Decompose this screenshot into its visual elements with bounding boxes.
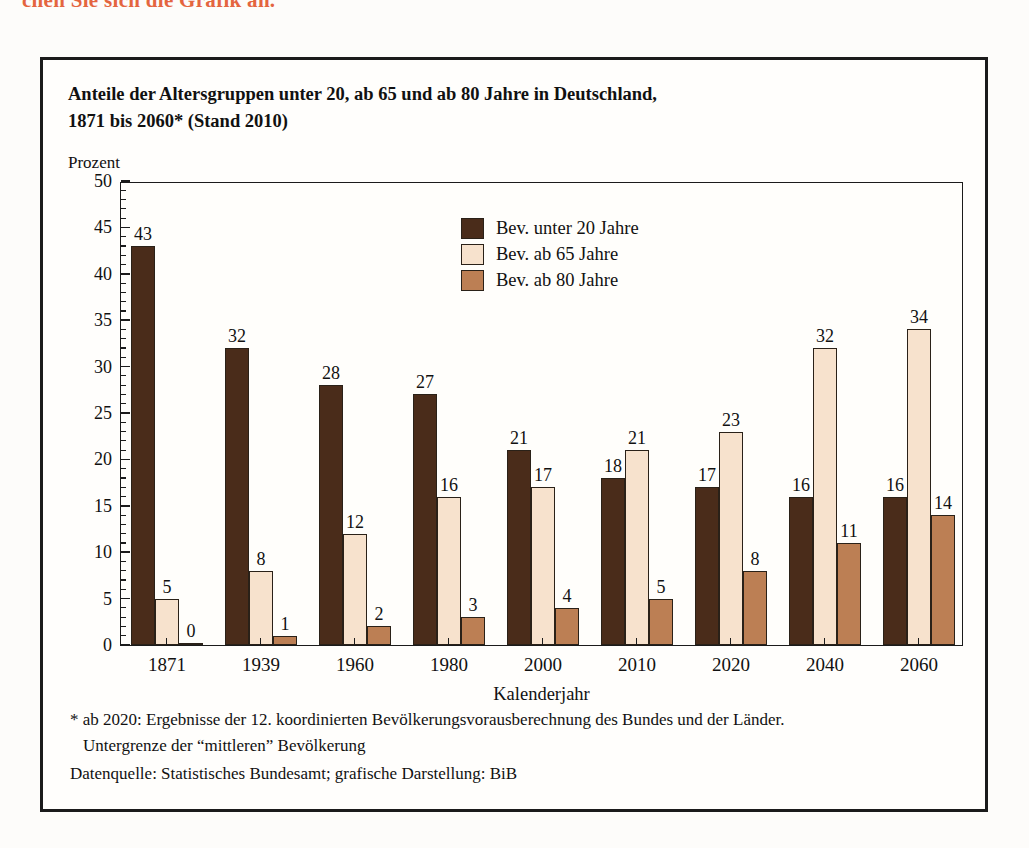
figure-notes: * ab 2020: Ergebnisse der 12. koordinier…	[70, 707, 970, 787]
bar[interactable]: 4	[555, 608, 579, 645]
y-axis-minor-tick	[121, 542, 126, 543]
bar-value-label: 27	[416, 372, 434, 393]
bar[interactable]: 18	[601, 478, 625, 645]
x-axis-title: Kalenderjahr	[121, 684, 962, 705]
x-axis-category-label: 2010	[618, 654, 656, 676]
bar-value-label: 1	[281, 614, 290, 635]
y-axis-minor-tick	[121, 208, 126, 209]
y-axis-minor-tick	[121, 375, 126, 376]
y-axis-minor-tick	[121, 199, 126, 200]
y-axis-tick-label: 35	[94, 310, 112, 331]
x-axis-category-label: 2000	[524, 654, 562, 676]
y-axis-tick-label: 5	[103, 588, 112, 609]
bar-value-label: 11	[840, 521, 857, 542]
y-axis-major-tick	[121, 319, 130, 321]
x-axis-tick	[542, 638, 543, 645]
y-axis-minor-tick	[121, 431, 126, 432]
bar[interactable]: 32	[225, 348, 249, 645]
y-axis-minor-tick	[121, 385, 126, 386]
y-axis-tick-label: 30	[94, 356, 112, 377]
y-axis-minor-tick	[121, 626, 126, 627]
x-axis-tick	[448, 638, 449, 645]
legend-item[interactable]: Bev. ab 65 Jahre	[461, 241, 639, 267]
y-axis-minor-tick	[121, 524, 126, 525]
legend-item[interactable]: Bev. unter 20 Jahre	[461, 215, 639, 241]
y-axis-minor-tick	[121, 635, 126, 636]
x-axis-category-label: 2060	[900, 654, 938, 676]
bar[interactable]: 27	[413, 394, 437, 645]
y-axis-minor-tick	[121, 218, 126, 219]
bar[interactable]: 28	[319, 385, 343, 645]
bar[interactable]: 16	[437, 497, 461, 645]
x-axis-category-label: 2020	[712, 654, 750, 676]
y-axis-major-tick	[121, 598, 130, 600]
bar[interactable]: 23	[719, 432, 743, 645]
legend-swatch-icon	[461, 218, 484, 239]
bar[interactable]: 17	[531, 487, 555, 645]
y-axis-minor-tick	[121, 255, 126, 256]
y-axis-minor-tick	[121, 579, 126, 580]
bar[interactable]: 1	[273, 636, 297, 645]
bar-value-label: 32	[228, 326, 246, 347]
y-axis-tick-label: 20	[94, 449, 112, 470]
bar[interactable]: 2	[367, 626, 391, 645]
bar[interactable]: 5	[649, 599, 673, 645]
y-axis-minor-tick	[121, 292, 126, 293]
x-axis-tick	[918, 638, 919, 645]
bar-value-label: 16	[440, 475, 458, 496]
bar[interactable]: 21	[625, 450, 649, 645]
y-axis-minor-tick	[121, 329, 126, 330]
y-axis-tick-label: 10	[94, 542, 112, 563]
y-axis-minor-tick	[121, 487, 126, 488]
y-axis-minor-tick	[121, 533, 126, 534]
x-axis-category-label: 1871	[148, 654, 186, 676]
legend-label: Bev. ab 80 Jahre	[496, 270, 618, 291]
bar-value-label: 17	[534, 465, 552, 486]
y-axis-minor-tick	[121, 310, 126, 311]
y-axis-minor-tick	[121, 403, 126, 404]
x-axis-tick	[636, 638, 637, 645]
legend-label: Bev. unter 20 Jahre	[496, 218, 639, 239]
bar[interactable]: 16	[883, 497, 907, 645]
y-axis-tick-label: 50	[94, 171, 112, 192]
bar[interactable]: 34	[907, 329, 931, 645]
bar[interactable]: 11	[837, 543, 861, 645]
bar-group: 1634142060	[883, 183, 955, 645]
bar[interactable]: 0	[179, 643, 203, 646]
bar-value-label: 43	[134, 224, 152, 245]
bar[interactable]: 14	[931, 515, 955, 645]
bar-group: 172382020	[695, 183, 767, 645]
bar-value-label: 5	[163, 577, 172, 598]
legend-swatch-icon	[461, 270, 484, 291]
bar[interactable]: 8	[743, 571, 767, 645]
bar[interactable]: 12	[343, 534, 367, 645]
x-axis-tick	[354, 638, 355, 645]
bar[interactable]: 21	[507, 450, 531, 645]
y-axis-tick-label: 40	[94, 263, 112, 284]
bar[interactable]: 32	[813, 348, 837, 645]
y-axis-minor-tick	[121, 394, 126, 395]
bar-value-label: 2	[375, 604, 384, 625]
bar[interactable]: 43	[131, 246, 155, 645]
x-axis-category-label: 1939	[242, 654, 280, 676]
bar[interactable]: 3	[461, 617, 485, 645]
bar-value-label: 12	[346, 512, 364, 533]
note-source: Datenquelle: Statistisches Bundesamt; gr…	[70, 761, 970, 787]
legend-swatch-icon	[461, 244, 484, 265]
bar[interactable]: 17	[695, 487, 719, 645]
bar[interactable]: 8	[249, 571, 273, 645]
y-axis-major-tick	[121, 505, 130, 507]
y-axis-minor-tick	[121, 338, 126, 339]
bar-value-label: 16	[792, 475, 810, 496]
bar-value-label: 3	[469, 595, 478, 616]
y-axis-major-tick	[121, 412, 130, 414]
legend-item[interactable]: Bev. ab 80 Jahre	[461, 267, 639, 293]
y-axis-minor-tick	[121, 561, 126, 562]
figure-title: Anteile der Altersgruppen unter 20, ab 6…	[68, 81, 948, 135]
chart-legend: Bev. unter 20 JahreBev. ab 65 JahreBev. …	[461, 215, 639, 293]
bar[interactable]: 16	[789, 497, 813, 645]
x-axis-tick	[730, 638, 731, 645]
bar-value-label: 21	[510, 428, 528, 449]
y-axis-tick-label: 0	[103, 635, 112, 656]
bar-value-label: 17	[698, 465, 716, 486]
